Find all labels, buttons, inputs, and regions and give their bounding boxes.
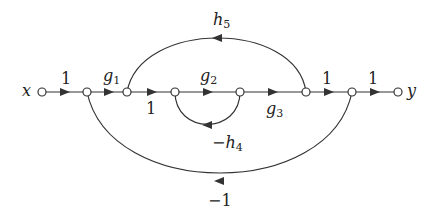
gain-g1-base: g <box>103 66 113 85</box>
graph-canvas <box>0 0 442 220</box>
gain-x-n1: 1 <box>61 71 71 87</box>
arrow-icon <box>104 88 114 96</box>
arrow-icon <box>60 88 70 96</box>
gain-n5-n6: 1 <box>322 71 332 87</box>
gain-n2-n3: 1 <box>146 101 156 117</box>
arrow-icon <box>202 121 212 129</box>
node-2 <box>123 88 131 96</box>
arrow-icon <box>147 88 157 96</box>
arrow-icon <box>268 88 278 96</box>
gain-g1: g1 <box>103 68 120 86</box>
node-4 <box>236 88 244 96</box>
gain-g2-base: g <box>200 66 210 85</box>
gain-h5-base: h <box>213 10 223 29</box>
arrow-icon <box>203 88 213 96</box>
gain-neg-h4: −h4 <box>212 135 243 153</box>
arrowheads <box>60 34 380 185</box>
node-y <box>394 88 402 96</box>
arrow-icon <box>324 88 334 96</box>
feedback-h4-branch <box>175 92 240 124</box>
input-label: x <box>22 83 31 99</box>
node-5 <box>302 88 310 96</box>
node-1 <box>83 88 91 96</box>
signal-flow-graph: x y 1 g1 1 g2 g3 1 1 −h4 h5 −1 <box>0 0 442 220</box>
gain-g2: g2 <box>200 68 217 86</box>
gain-h5: h5 <box>213 12 230 30</box>
gain-g3: g3 <box>266 101 283 119</box>
output-label: y <box>407 83 416 99</box>
node-6 <box>348 88 356 96</box>
node-x <box>38 88 46 96</box>
gain-n6-y: 1 <box>368 71 378 87</box>
gain-g3-base: g <box>266 99 276 118</box>
gain-h4-sub: 4 <box>236 141 243 154</box>
node-3 <box>171 88 179 96</box>
gain-g2-sub: 2 <box>210 74 217 87</box>
gain-neg-one: −1 <box>208 193 232 209</box>
gain-h5-sub: 5 <box>223 18 230 31</box>
gain-g1-sub: 1 <box>113 74 120 87</box>
arrow-icon <box>212 34 222 42</box>
arrow-icon <box>214 177 224 185</box>
gain-g3-sub: 3 <box>276 107 283 120</box>
arrow-icon <box>370 88 380 96</box>
gain-h4-base: −h <box>212 133 236 152</box>
